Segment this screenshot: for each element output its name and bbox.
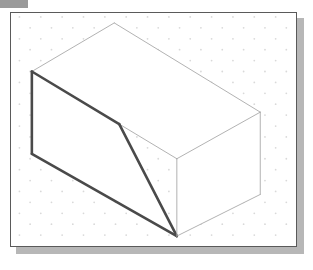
grid-dot	[264, 27, 266, 29]
grid-dot	[232, 82, 234, 84]
grid-dot	[19, 125, 21, 127]
grid-dot	[125, 212, 127, 214]
grid-dot	[200, 71, 202, 73]
grid-dot	[211, 38, 213, 40]
figure-panel	[10, 12, 297, 247]
grid-dot	[253, 234, 255, 236]
grid-dot	[264, 49, 266, 51]
grid-dot	[104, 234, 106, 236]
grid-dot	[40, 191, 42, 193]
grid-dot	[19, 60, 21, 62]
grid-dot	[253, 103, 255, 105]
grid-dot	[83, 191, 85, 193]
grid-dot	[285, 180, 287, 182]
grid-dot	[83, 212, 85, 214]
grid-dot	[285, 201, 287, 203]
grid-dot	[275, 103, 277, 105]
grid-dot	[243, 71, 245, 73]
grid-dot	[72, 201, 74, 203]
grid-dot	[285, 114, 287, 116]
grid-dot	[253, 16, 255, 18]
grid-dot	[253, 82, 255, 84]
grid-dot	[253, 60, 255, 62]
grid-dot	[275, 16, 277, 18]
grid-dot	[168, 191, 170, 193]
grid-dot	[29, 201, 31, 203]
grid-dot	[264, 201, 266, 203]
grid-dot	[93, 27, 95, 29]
grid-dot	[83, 234, 85, 236]
grid-dot	[264, 92, 266, 94]
grid-dot	[221, 223, 223, 225]
grid-dot	[211, 60, 213, 62]
page-corner-tab	[0, 0, 28, 8]
grid-dot	[115, 223, 117, 225]
grid-dot	[275, 234, 277, 236]
grid-dot	[285, 92, 287, 94]
screenshot-root	[0, 0, 313, 270]
grid-dot	[19, 234, 21, 236]
grid-dot	[125, 16, 127, 18]
grid-dot	[285, 223, 287, 225]
grid-dot	[264, 223, 266, 225]
grid-dot	[29, 49, 31, 51]
grid-dot	[72, 223, 74, 225]
grid-dot	[61, 38, 63, 40]
grid-dot	[40, 16, 42, 18]
grid-dot	[232, 234, 234, 236]
grid-dot	[264, 180, 266, 182]
grid-dot	[243, 92, 245, 94]
grid-dot	[61, 191, 63, 193]
grid-dot	[264, 71, 266, 73]
grid-dot	[40, 60, 42, 62]
grid-dot	[211, 234, 213, 236]
grid-dot	[19, 103, 21, 105]
grid-dot	[275, 60, 277, 62]
grid-dot	[275, 212, 277, 214]
grid-dot	[19, 212, 21, 214]
grid-dot	[243, 49, 245, 51]
grid-dot	[40, 169, 42, 171]
grid-dot	[285, 49, 287, 51]
grid-dot	[221, 71, 223, 73]
grid-dot	[19, 38, 21, 40]
grid-dot	[253, 38, 255, 40]
grid-dot	[232, 38, 234, 40]
grid-dot	[72, 27, 74, 29]
grid-dot	[93, 223, 95, 225]
grid-dot	[211, 16, 213, 18]
grid-dot	[275, 82, 277, 84]
grid-dot	[275, 125, 277, 127]
grid-dot	[168, 16, 170, 18]
grid-dot	[168, 38, 170, 40]
grid-dot	[61, 16, 63, 18]
grid-dot	[29, 158, 31, 160]
grid-dot	[243, 27, 245, 29]
grid-dot	[29, 180, 31, 182]
grid-dot	[168, 212, 170, 214]
grid-dot	[51, 201, 53, 203]
grid-dot	[40, 38, 42, 40]
grid-dot	[136, 223, 138, 225]
grid-dot	[147, 16, 149, 18]
grid-dot	[189, 16, 191, 18]
grid-dot	[147, 234, 149, 236]
grid-dot	[19, 16, 21, 18]
grid-dot	[189, 60, 191, 62]
grid-dot	[264, 158, 266, 160]
grid-dot	[168, 169, 170, 171]
grid-dot	[264, 136, 266, 138]
grid-dot	[232, 212, 234, 214]
grid-dot	[275, 191, 277, 193]
grid-dot	[264, 114, 266, 116]
grid-dot	[275, 169, 277, 171]
grid-dot	[29, 27, 31, 29]
grid-dot	[157, 27, 159, 29]
grid-dot	[29, 223, 31, 225]
grid-dot	[93, 201, 95, 203]
grid-dot	[189, 234, 191, 236]
grid-dot	[232, 16, 234, 18]
grid-dot	[179, 27, 181, 29]
grid-dot	[232, 60, 234, 62]
grid-dot	[19, 169, 21, 171]
